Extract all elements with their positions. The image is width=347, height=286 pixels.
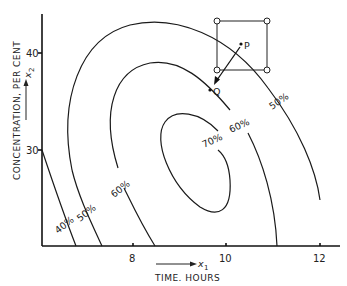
x-tick-12: 12	[313, 253, 326, 264]
x-tick-10: 10	[219, 253, 232, 264]
y-axis-label: CONCENTRATION, PER CENT	[12, 41, 22, 180]
contour-label-60-right: 60%	[227, 116, 251, 135]
svg-text:x: x	[197, 258, 204, 269]
contour-label-50-right: 50%	[267, 91, 291, 112]
y-variable-arrow: x 2	[22, 68, 36, 120]
point-p-icon	[239, 42, 242, 45]
contour-label-40: 40%	[52, 214, 75, 236]
point-q-label: Q	[213, 86, 220, 97]
contour-60	[110, 62, 230, 168]
design-point-icon	[214, 67, 220, 73]
contour-label-70: 70%	[200, 131, 224, 150]
contour-50	[68, 22, 320, 200]
point-p-label: P	[244, 40, 250, 51]
design-point-icon	[264, 18, 270, 24]
contour-70	[161, 114, 230, 212]
design-point-icon	[214, 18, 220, 24]
svg-text:CONCENTRATION, PER CENT: CONCENTRATION, PER CENT	[12, 41, 22, 180]
contour-diagram: 40 30 8 10 12 CONCENTRATION, PER CENT x …	[0, 0, 347, 286]
x-tick-8: 8	[129, 253, 135, 264]
y-tick-30: 30	[26, 145, 39, 156]
svg-text:1: 1	[204, 264, 208, 272]
contour-label-50-left: 50%	[74, 202, 97, 224]
svg-text:2: 2	[28, 68, 36, 72]
svg-text:x: x	[22, 72, 33, 79]
point-q-icon	[208, 88, 211, 91]
x-variable-arrow: x 1	[156, 258, 208, 272]
arrow-up-icon	[24, 79, 29, 86]
y-tick-40: 40	[26, 48, 39, 59]
arrow-right-icon	[190, 262, 197, 267]
design-point-icon	[264, 67, 270, 73]
design-square	[214, 18, 270, 73]
x-axis-label: TIME. HOURS	[154, 273, 220, 283]
